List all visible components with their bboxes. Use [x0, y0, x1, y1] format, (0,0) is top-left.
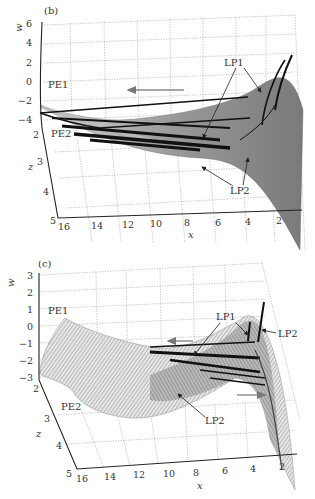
svg-text:3: 3 [27, 270, 33, 281]
label-pe1-b: PE1 [48, 79, 68, 90]
svg-text:8: 8 [193, 467, 199, 478]
svg-text:0: 0 [27, 321, 33, 332]
w-ticks-b: 6 4 2 0 −2 −4 [18, 18, 32, 125]
svg-text:4: 4 [43, 186, 49, 197]
label-lp2-c-right: LP2 [278, 328, 298, 339]
figure-canvas: (b) PE1 PE2 LP1 [0, 0, 315, 499]
panel-b: (b) PE1 PE2 LP1 [13, 5, 305, 250]
panel-label-b: (b) [44, 5, 58, 16]
svg-text:−3: −3 [19, 372, 33, 383]
panel-c: (c) PE1 PE2 LP1 LP2 LP2 [5, 258, 300, 491]
svg-text:−2: −2 [19, 355, 33, 366]
svg-text:8: 8 [184, 217, 190, 228]
svg-text:10: 10 [163, 468, 175, 479]
w-ticks-c: 3 2 1 0 −1 −2 −3 [19, 270, 33, 383]
svg-text:4: 4 [56, 440, 62, 451]
svg-text:4: 4 [26, 37, 32, 48]
x-axis-label-c: x [197, 480, 203, 491]
svg-text:12: 12 [122, 219, 134, 230]
label-lp1-b: LP1 [224, 57, 244, 68]
svg-text:14: 14 [91, 220, 103, 231]
svg-text:4: 4 [245, 216, 251, 227]
svg-text:0: 0 [26, 76, 32, 87]
svg-text:4: 4 [250, 463, 256, 474]
label-lp2-b: LP2 [230, 185, 250, 196]
svg-text:6: 6 [26, 18, 32, 29]
svg-text:2: 2 [26, 57, 32, 68]
w-axis-label-c: w [5, 278, 16, 287]
svg-text:3: 3 [44, 413, 50, 424]
panel-label-c: (c) [38, 258, 52, 269]
label-lp1-c: LP1 [216, 311, 236, 322]
svg-text:2: 2 [27, 287, 33, 298]
svg-text:16: 16 [76, 473, 88, 484]
svg-text:6: 6 [215, 217, 221, 228]
svg-text:−2: −2 [18, 95, 32, 106]
svg-text:−4: −4 [18, 114, 32, 125]
svg-text:1: 1 [27, 304, 33, 315]
svg-text:16: 16 [58, 221, 70, 232]
svg-text:2: 2 [279, 461, 285, 472]
svg-text:6: 6 [222, 465, 228, 476]
svg-text:−1: −1 [19, 338, 33, 349]
svg-text:2: 2 [33, 383, 39, 394]
svg-text:3: 3 [37, 156, 43, 167]
z-axis-label-c: z [35, 428, 42, 439]
svg-text:12: 12 [133, 469, 145, 480]
z-axis-label-b: z [27, 161, 34, 172]
svg-text:2: 2 [276, 215, 282, 226]
x-ticks-c: 16 14 12 10 8 6 4 2 [76, 461, 285, 484]
x-ticks-b: 16 14 12 10 8 6 4 2 [58, 215, 282, 232]
svg-text:5: 5 [66, 468, 72, 479]
label-lp2-c-bottom: LP2 [205, 415, 225, 426]
svg-text:2: 2 [33, 129, 39, 140]
w-axis-label-b: w [13, 23, 24, 32]
label-pe2-c: PE2 [61, 401, 81, 412]
svg-text:5: 5 [50, 215, 56, 226]
label-pe1-c: PE1 [48, 305, 68, 316]
svg-text:14: 14 [104, 471, 116, 482]
label-pe2-b: PE2 [51, 128, 71, 139]
svg-text:10: 10 [150, 218, 162, 229]
x-axis-label-b: x [188, 229, 194, 240]
